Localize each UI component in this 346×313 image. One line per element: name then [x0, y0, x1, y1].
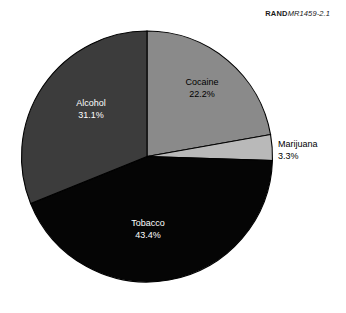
figure-root: RANDMR1459-2.1 Cocaine 22.2% Marijuana 3… [0, 0, 346, 313]
pie-chart [0, 0, 346, 313]
pie-slices [22, 31, 273, 282]
